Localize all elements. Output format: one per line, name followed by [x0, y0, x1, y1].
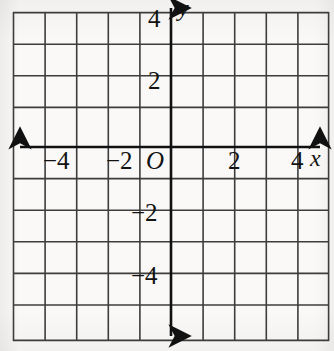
origin-label: O	[146, 148, 164, 173]
coordinate-plane-figure: −4 −2 2 4 4 2 −2 −4 O x y	[0, 0, 334, 351]
x-tick-label-neg4: −4	[43, 148, 70, 173]
y-tick-label-neg2: −2	[131, 200, 158, 225]
y-tick-label-2: 2	[148, 68, 161, 93]
x-tick-label-2: 2	[228, 148, 241, 173]
y-tick-label-4: 4	[148, 6, 161, 31]
x-tick-label-neg2: −2	[106, 148, 133, 173]
x-axis-label: x	[310, 146, 321, 170]
y-tick-label-neg4: −4	[131, 263, 158, 288]
y-axis-label: y	[178, 0, 189, 20]
grid-and-axes-svg	[0, 0, 334, 351]
x-tick-label-4: 4	[291, 148, 304, 173]
